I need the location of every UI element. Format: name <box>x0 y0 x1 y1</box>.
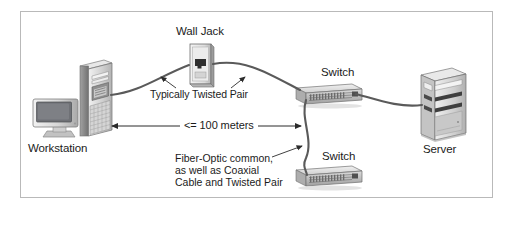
label-workstation: Workstation <box>28 142 87 154</box>
media-note-line-3: Cable and Twisted Pair <box>175 176 283 188</box>
media-note-block: Fiber-Optic common, as well as Coaxial C… <box>175 152 283 188</box>
label-switch-bottom: Switch <box>322 150 355 162</box>
label-distance: <= 100 meters <box>180 119 258 131</box>
cable-walljack-to-switch-top <box>213 63 300 90</box>
arrow-twisted-pair-right <box>231 77 245 88</box>
media-note-line-1: Fiber-Optic common, <box>175 152 283 164</box>
network-diagram-figure: Wall Jack Typically Twisted Pair <= 100 … <box>0 0 511 227</box>
server-icon <box>421 68 466 142</box>
label-typically-twisted-pair: Typically Twisted Pair <box>150 88 248 100</box>
label-wall-jack: Wall Jack <box>176 25 224 37</box>
arrow-twisted-pair-left <box>161 77 176 88</box>
workstation-monitor-icon <box>33 99 78 137</box>
media-note-line-2: as well as Coaxial <box>175 164 283 176</box>
workstation-tower-icon <box>80 60 112 136</box>
wall-jack-icon <box>190 44 214 87</box>
label-server: Server <box>423 143 456 155</box>
cable-switch-top-to-switch-bottom <box>304 100 308 175</box>
diagram-graphics <box>0 0 511 227</box>
label-switch-top: Switch <box>321 66 354 78</box>
cable-switch-top-to-server <box>356 94 422 106</box>
